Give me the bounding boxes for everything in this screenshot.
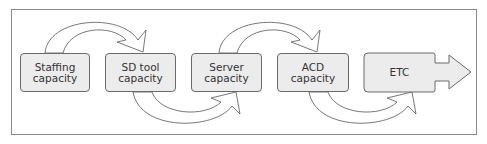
node-label: ACD <box>291 62 335 73</box>
node-sd-tool-capacity: SD toolcapacity <box>105 53 176 92</box>
node-label: capacity <box>204 73 248 84</box>
node-label: Server <box>204 62 248 73</box>
node-acd-capacity: ACDcapacity <box>277 53 349 92</box>
curved-arrow-icon <box>45 22 146 53</box>
curved-arrow-icon <box>133 92 240 123</box>
node-label: ETC <box>390 67 410 78</box>
node-etc: ETC <box>364 53 435 92</box>
curved-arrow-icon <box>219 22 320 53</box>
curved-arrow-icon <box>309 92 416 123</box>
node-label: capacity <box>33 73 77 84</box>
node-label: capacity <box>118 73 162 84</box>
node-server-capacity: Servercapacity <box>191 53 262 92</box>
node-staffing-capacity: Staffingcapacity <box>20 53 90 92</box>
node-label: capacity <box>291 73 335 84</box>
node-label: SD tool <box>118 62 162 73</box>
node-label: Staffing <box>33 62 77 73</box>
